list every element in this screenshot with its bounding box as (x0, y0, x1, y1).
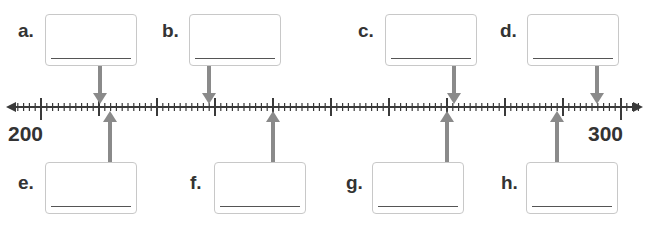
answer-line (533, 58, 613, 59)
item-letter-h: h. (501, 172, 518, 194)
answer-box-g[interactable] (372, 162, 464, 214)
left-arrowhead-icon (6, 102, 16, 112)
answer-box-c[interactable] (385, 14, 477, 66)
answer-line (378, 206, 458, 207)
answer-line (51, 206, 131, 207)
item-letter-c: c. (358, 20, 374, 42)
start-tick-label: 200 (8, 122, 43, 146)
answer-box-b[interactable] (189, 14, 281, 66)
item-letter-e: e. (18, 172, 34, 194)
answer-box-f[interactable] (214, 162, 306, 214)
end-tick-label: 300 (588, 122, 623, 146)
item-letter-a: a. (18, 20, 34, 42)
answer-box-h[interactable] (526, 162, 618, 214)
answer-line (391, 58, 471, 59)
answer-box-e[interactable] (45, 162, 137, 214)
answer-box-d[interactable] (527, 14, 619, 66)
item-letter-f: f. (190, 172, 202, 194)
item-letter-b: b. (162, 20, 179, 42)
item-letter-g: g. (346, 172, 363, 194)
answer-line (51, 58, 131, 59)
answer-box-a[interactable] (45, 14, 137, 66)
answer-line (532, 206, 612, 207)
answer-line (220, 206, 300, 207)
item-letter-d: d. (500, 20, 517, 42)
answer-line (195, 58, 275, 59)
